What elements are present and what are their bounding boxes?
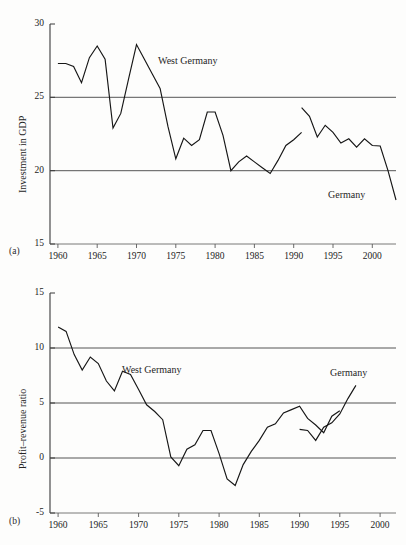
panel-a-label: (a) bbox=[9, 246, 20, 256]
chart-b-ytick-label-5: 5 bbox=[24, 397, 44, 407]
chart-a-xtick-label-1970: 1970 bbox=[117, 251, 157, 261]
panel-b-profit-revenue-ratio: Profit–revenue ratio 15 10 5 0 -5 1960 1… bbox=[0, 273, 406, 545]
chart-a-ytick-label-15: 15 bbox=[24, 238, 44, 248]
chart-a-ytick-label-30: 30 bbox=[24, 18, 44, 28]
chart-b-plot bbox=[0, 273, 406, 545]
chart-b-x-ticks bbox=[58, 513, 380, 517]
chart-b-xtick-label-1985: 1985 bbox=[239, 520, 279, 530]
chart-a-ytick-label-20: 20 bbox=[24, 165, 44, 175]
chart-a-xtick-label-1975: 1975 bbox=[156, 251, 196, 261]
chart-b-series-label-west-germany: West Germany bbox=[122, 364, 181, 375]
chart-a-xtick-label-2000: 2000 bbox=[352, 251, 392, 261]
chart-b-xtick-label-1995: 1995 bbox=[320, 520, 360, 530]
chart-b-xtick-label-2000: 2000 bbox=[360, 520, 400, 530]
chart-b-xtick-label-1970: 1970 bbox=[119, 520, 159, 530]
chart-a-ytick-label-25: 25 bbox=[24, 91, 44, 101]
chart-b-xtick-label-1980: 1980 bbox=[199, 520, 239, 530]
chart-a-series-label-west-germany: West Germany bbox=[158, 55, 217, 66]
chart-a-series-germany bbox=[302, 108, 396, 200]
chart-b-ytick-label-0: 0 bbox=[24, 452, 44, 462]
chart-a-xtick-label-1960: 1960 bbox=[38, 251, 78, 261]
chart-b-xtick-label-1990: 1990 bbox=[280, 520, 320, 530]
chart-a-xtick-label-1980: 1980 bbox=[195, 251, 235, 261]
chart-a-xtick-label-1965: 1965 bbox=[77, 251, 117, 261]
panel-b-label: (b) bbox=[9, 516, 20, 526]
chart-b-series-label-germany: Germany bbox=[330, 367, 367, 378]
chart-b-ytick-label-minus5: -5 bbox=[20, 507, 44, 517]
chart-b-xtick-label-1975: 1975 bbox=[159, 520, 199, 530]
panel-a-investment-in-gdp: Investment in GDP 30 25 20 15 1960 1965 … bbox=[0, 0, 406, 273]
chart-b-ytick-label-10: 10 bbox=[24, 342, 44, 352]
chart-b-xtick-label-1960: 1960 bbox=[38, 520, 78, 530]
chart-a-xtick-label-1985: 1985 bbox=[234, 251, 274, 261]
chart-a-x-ticks bbox=[58, 244, 372, 248]
chart-a-xtick-label-1990: 1990 bbox=[274, 251, 314, 261]
chart-b-series-germany bbox=[300, 385, 356, 440]
chart-a-plot bbox=[0, 0, 406, 273]
chart-b-ytick-label-15: 15 bbox=[24, 287, 44, 297]
chart-a-y-axis-title: Investment in GDP bbox=[17, 116, 28, 193]
chart-a-series-label-germany: Germany bbox=[328, 189, 365, 200]
chart-a-xtick-label-1995: 1995 bbox=[313, 251, 353, 261]
chart-b-xtick-label-1965: 1965 bbox=[78, 520, 118, 530]
chart-b-series-west-germany bbox=[58, 327, 340, 485]
